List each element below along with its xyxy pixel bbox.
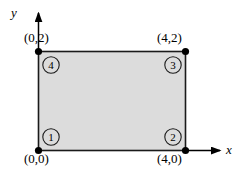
- node-coord-label-2: (4,0): [157, 152, 182, 165]
- node-dot-3: [182, 48, 189, 55]
- node-coord-label-3: (4,2): [157, 31, 182, 44]
- node-number-3: 3: [165, 57, 182, 74]
- x-axis-label: x: [226, 143, 232, 156]
- node-number-1: 1: [43, 129, 60, 146]
- element-diagram: y x 1 2 3 4 (0,0) (4,0) (4,2) (0,2): [0, 0, 240, 173]
- node-coord-label-4: (0,2): [24, 31, 49, 44]
- node-dot-4: [35, 48, 42, 55]
- diagram-canvas: [0, 0, 240, 173]
- y-axis-label: y: [11, 6, 17, 19]
- node-coord-label-1: (0,0): [24, 152, 49, 165]
- node-number-2: 2: [165, 129, 182, 146]
- element-body: [39, 52, 186, 151]
- node-number-4: 4: [43, 57, 60, 74]
- node-dot-2: [182, 147, 189, 154]
